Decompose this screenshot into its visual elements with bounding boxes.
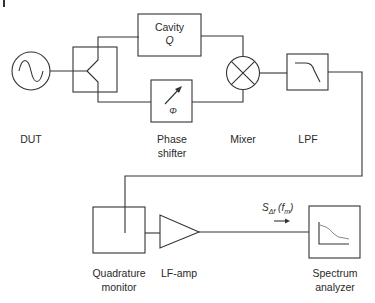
lf-amp-label: LF-amp [156,267,202,280]
spectrum-curve-icon [320,225,349,239]
signal-subscript: Δf [269,208,276,215]
dut-label: DUT [14,133,48,146]
sine-wave-icon [19,61,43,82]
quadrature-monitor-label-1: Quadrature [88,267,150,280]
dut-source [12,52,50,90]
signal-close-paren: ) [290,202,293,213]
phase-shifter-label-2: shifter [150,147,194,160]
cavity-q-label: Q [138,34,201,47]
lpf-box [287,54,328,90]
quadrature-monitor-label-2: monitor [88,281,150,294]
cavity-label: Cavity [138,21,201,34]
lpf-label: LPF [290,133,326,146]
spectrum-analyzer-label-1: Spectrum [304,267,366,280]
phase-shifter-label-1: Phase [150,133,194,146]
phase-symbol: Φ [163,105,183,118]
spectrum-analyzer-label-2: analyzer [304,281,366,294]
lf-amp-triangle [160,215,199,248]
lowpass-curve-icon [295,63,320,82]
signal-symbol: S [262,202,269,213]
splitter-lower-branch [87,71,151,102]
quadrature-monitor-box [93,207,145,253]
mixer-label: Mixer [223,133,263,146]
signal-label: SΔf (fm) [262,202,293,215]
spectrum-analyzer-box [309,206,360,258]
spectrum-axes-icon [319,222,349,244]
splitter-upper-branch [87,37,139,71]
splitter-box [73,47,117,92]
